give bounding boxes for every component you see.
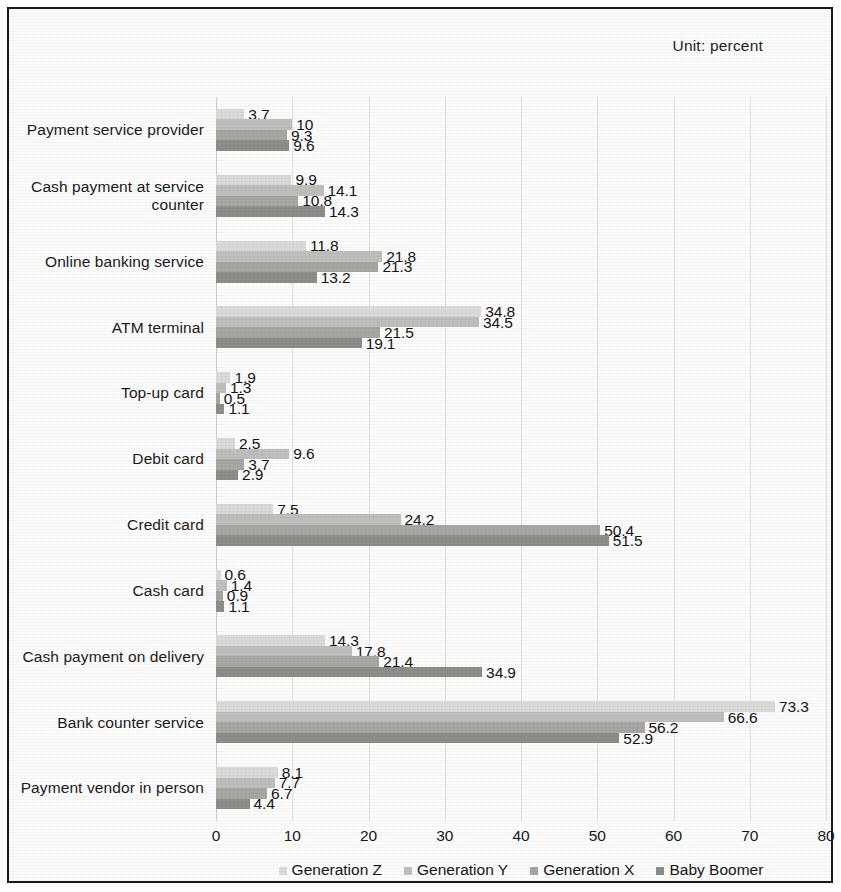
bar-value-label: 52.9 <box>623 731 653 747</box>
bar-track: 0.61.40.91.1 <box>216 570 826 612</box>
legend-item-generation-y[interactable]: Generation Y <box>404 861 508 879</box>
category-label: Top-up card <box>14 384 204 402</box>
category-label: Payment service provider <box>14 121 204 139</box>
x-tick-0: 0 <box>212 827 221 845</box>
bar-1 <box>216 580 227 591</box>
x-tick-30: 30 <box>436 827 453 845</box>
bar-track: 9.914.110.814.3 <box>216 175 826 217</box>
chart-legend: Generation ZGeneration YGeneration XBaby… <box>216 857 826 883</box>
category-label: Cash card <box>14 582 204 600</box>
bar-3 <box>216 140 289 151</box>
bar-group: Cash payment on delivery14.317.821.434.9 <box>216 635 826 677</box>
bar-1 <box>216 646 352 657</box>
bar-3 <box>216 272 317 283</box>
legend-label: Baby Boomer <box>669 861 763 879</box>
category-label: Cash payment on delivery <box>14 648 204 666</box>
legend-swatch-icon <box>279 867 287 875</box>
x-tick-70: 70 <box>741 827 758 845</box>
category-label: Cash payment at service counter <box>14 178 204 213</box>
bar-value-label: 4.4 <box>254 796 275 812</box>
bar-group: Payment service provider3.7109.39.6 <box>216 109 826 151</box>
bar-value-label: 13.2 <box>321 270 351 286</box>
bar-value-label: 2.9 <box>242 467 263 483</box>
bar-group: Online banking service11.821.821.313.2 <box>216 241 826 283</box>
bar-1 <box>216 514 401 525</box>
x-tick-60: 60 <box>665 827 682 845</box>
legend-item-generation-z[interactable]: Generation Z <box>279 861 382 879</box>
bar-group: Debit card2.59.63.72.9 <box>216 438 826 480</box>
bar-track: 73.366.656.252.9 <box>216 701 826 743</box>
bar-track: 3.7109.39.6 <box>216 109 826 151</box>
legend-item-baby-boomer[interactable]: Baby Boomer <box>656 861 763 879</box>
bar-0 <box>216 372 230 383</box>
bar-value-label: 34.5 <box>483 315 513 331</box>
category-label: Credit card <box>14 516 204 534</box>
chart-page: Unit: percent Payment service provider3.… <box>0 0 841 892</box>
bar-group: Bank counter service73.366.656.252.9 <box>216 701 826 743</box>
bar-track: 7.524.250.451.5 <box>216 504 826 546</box>
x-tick-20: 20 <box>360 827 377 845</box>
bar-2 <box>216 262 378 273</box>
bar-1 <box>216 317 479 328</box>
bar-3 <box>216 535 609 546</box>
bar-track: 14.317.821.434.9 <box>216 635 826 677</box>
bar-2 <box>216 327 380 338</box>
bar-0 <box>216 241 306 252</box>
unit-caption: Unit: percent <box>673 37 763 55</box>
legend-swatch-icon <box>404 867 412 875</box>
bar-2 <box>216 591 223 602</box>
legend-label: Generation Y <box>417 861 508 879</box>
bar-track: 34.834.521.519.1 <box>216 306 826 348</box>
bar-0 <box>216 109 244 120</box>
bar-group: Credit card7.524.250.451.5 <box>216 504 826 546</box>
bar-0 <box>216 175 291 186</box>
bar-track: 1.91.30.51.1 <box>216 372 826 414</box>
category-label: Debit card <box>14 450 204 468</box>
bar-group: Top-up card1.91.30.51.1 <box>216 372 826 414</box>
legend-swatch-icon <box>530 867 538 875</box>
bar-group: ATM terminal34.834.521.519.1 <box>216 306 826 348</box>
bar-track: 8.17.76.74.4 <box>216 767 826 809</box>
bar-value-label: 34.9 <box>486 665 516 681</box>
bar-2 <box>216 722 645 733</box>
bar-value-label: 51.5 <box>613 533 643 549</box>
bar-3 <box>216 601 224 612</box>
x-tick-80: 80 <box>817 827 834 845</box>
bar-value-label: 1.1 <box>228 401 249 417</box>
x-axis: 01020304050607080 <box>216 821 826 851</box>
bar-2 <box>216 130 287 141</box>
bar-value-label: 9.6 <box>293 446 314 462</box>
bar-value-label: 1.1 <box>228 599 249 615</box>
bar-3 <box>216 470 238 481</box>
bar-1 <box>216 251 382 262</box>
bar-3 <box>216 799 250 810</box>
bar-value-label: 9.6 <box>293 138 314 154</box>
bar-value-label: 21.3 <box>382 259 412 275</box>
bar-0 <box>216 570 221 581</box>
x-tick-10: 10 <box>284 827 301 845</box>
bar-2 <box>216 196 298 207</box>
bar-value-label: 14.3 <box>329 204 359 220</box>
gridline-80 <box>826 97 827 821</box>
bar-0 <box>216 306 481 317</box>
legend-label: Generation X <box>543 861 634 879</box>
x-tick-50: 50 <box>589 827 606 845</box>
bar-0 <box>216 504 273 515</box>
legend-item-generation-x[interactable]: Generation X <box>530 861 634 879</box>
bar-0 <box>216 438 235 449</box>
bar-0 <box>216 635 325 646</box>
legend-swatch-icon <box>656 867 664 875</box>
bar-value-label: 66.6 <box>728 710 758 726</box>
bar-0 <box>216 701 775 712</box>
category-label: Bank counter service <box>14 714 204 732</box>
bar-track: 11.821.821.313.2 <box>216 241 826 283</box>
bar-3 <box>216 733 619 744</box>
bar-group: Cash payment at service counter9.914.110… <box>216 175 826 217</box>
plot-area: Payment service provider3.7109.39.6Cash … <box>216 97 826 821</box>
bar-2 <box>216 656 379 667</box>
bar-3 <box>216 404 224 415</box>
bar-3 <box>216 338 362 349</box>
bar-2 <box>216 393 220 404</box>
page-border-frame: Unit: percent Payment service provider3.… <box>7 7 833 883</box>
category-label: ATM terminal <box>14 319 204 337</box>
